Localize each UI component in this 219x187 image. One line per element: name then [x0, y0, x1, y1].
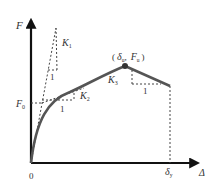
y-axis-label: F — [15, 19, 23, 31]
peak-point — [122, 63, 128, 69]
f0-label: F0 — [15, 98, 25, 110]
peak-label: (δu,Fu) — [112, 51, 145, 63]
x-axis-label: Δ — [198, 167, 205, 178]
force-displacement-diagram: F Δ 0 F0 K1 1 K2 1 K3 1 (δu,Fu) δy — [0, 0, 219, 187]
k3-unit-label: 1 — [143, 86, 148, 96]
k3-label: K3 — [107, 74, 118, 86]
k2-label: K2 — [79, 90, 90, 102]
k1-label: K1 — [61, 37, 72, 49]
origin-label: 0 — [29, 171, 34, 181]
k1-unit-label: 1 — [50, 72, 55, 82]
delta-y-label: δy — [165, 166, 173, 178]
k2-unit-label: 1 — [60, 104, 65, 114]
